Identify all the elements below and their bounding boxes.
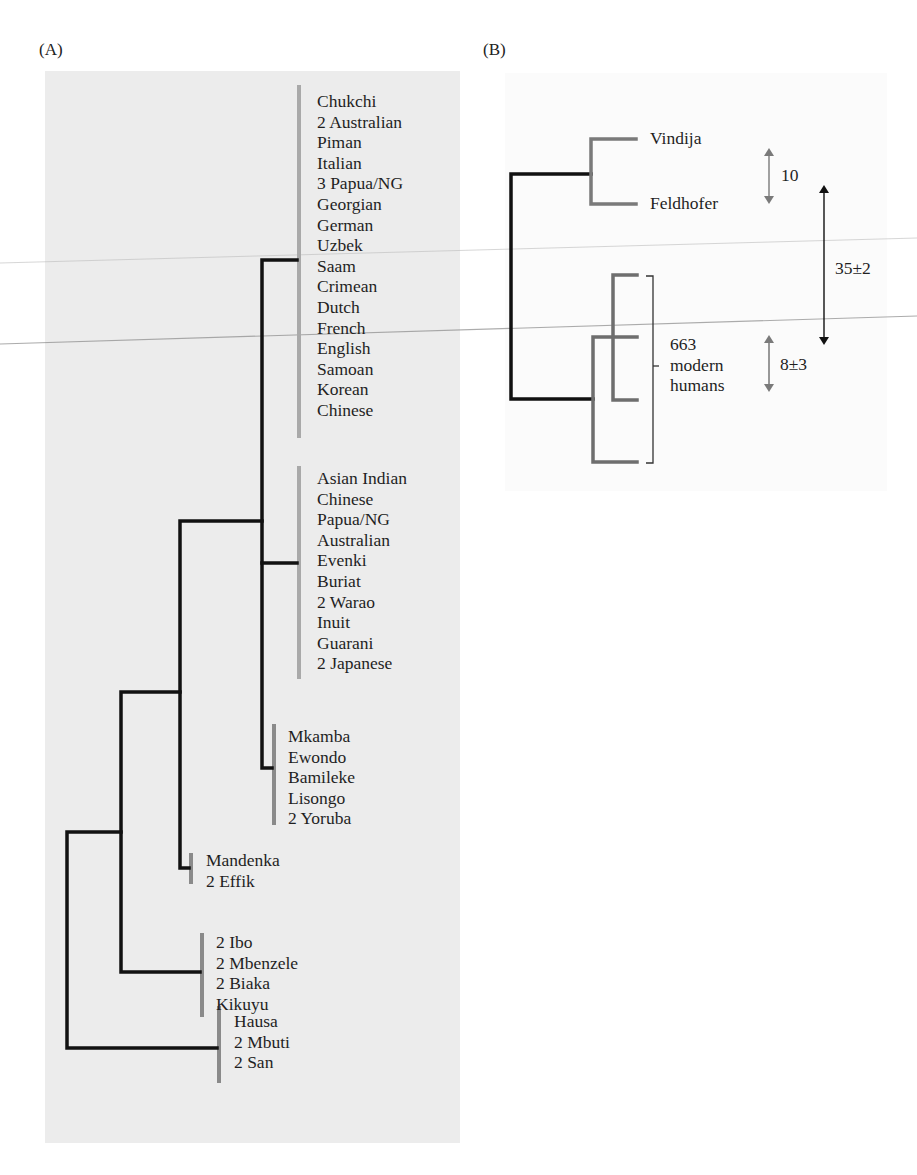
panel-b-neanderthal-branches <box>591 139 636 204</box>
annotation-modern-divergence: 8±3 <box>780 354 807 375</box>
taxon-label: 2 Effik <box>206 871 280 892</box>
taxa-group-5: 2 Ibo 2 Mbenzele 2 Biaka Kikuyu <box>216 932 298 1014</box>
taxon-label: German <box>317 215 403 236</box>
taxon-label: 2 Warao <box>317 592 407 613</box>
taxon-label: Papua/NG <box>317 509 407 530</box>
modern-humans-bracket <box>646 276 659 463</box>
taxon-label: Korean <box>317 379 403 400</box>
taxon-vindija: Vindija <box>650 128 701 149</box>
taxon-label: Chinese <box>317 489 407 510</box>
taxon-label: Italian <box>317 153 403 174</box>
taxon-label: Buriat <box>317 571 407 592</box>
taxon-label: 2 Mbenzele <box>216 953 298 974</box>
taxon-label: Saam <box>317 256 403 277</box>
taxon-label: Evenki <box>317 550 407 571</box>
panel-a-branches <box>67 260 297 1048</box>
taxa-group-3: Mkamba Ewondo Bamileke Lisongo 2 Yoruba <box>288 726 355 829</box>
annotation-split-divergence: 35±2 <box>835 258 871 279</box>
phylogenetic-tree-lines <box>0 0 917 1175</box>
taxon-label: Inuit <box>317 612 407 633</box>
taxon-feldhofer: Feldhofer <box>650 193 718 214</box>
taxon-label: Chukchi <box>317 91 403 112</box>
taxon-label: Bamileke <box>288 767 355 788</box>
taxon-label: 2 Biaka <box>216 973 298 994</box>
taxon-label: Hausa <box>234 1011 290 1032</box>
taxon-label: Mkamba <box>288 726 355 747</box>
taxon-label: Georgian <box>317 194 403 215</box>
taxon-label: Piman <box>317 132 403 153</box>
modern-humans-label: 663 modern humans <box>670 334 724 396</box>
taxon-label: Australian <box>317 530 407 551</box>
taxon-label: 2 Yoruba <box>288 808 355 829</box>
taxon-label: 2 Australian <box>317 112 403 133</box>
taxon-label: Dutch <box>317 297 403 318</box>
taxon-label: 2 Mbuti <box>234 1032 290 1053</box>
taxon-label: Ewondo <box>288 747 355 768</box>
taxa-group-4: Mandenka 2 Effik <box>206 850 280 891</box>
modern-label-line3: humans <box>670 375 724 396</box>
taxa-group-2: Asian Indian Chinese Papua/NG Australian… <box>317 468 407 674</box>
taxon-label: 3 Papua/NG <box>317 173 403 194</box>
taxa-group-6: Hausa 2 Mbuti 2 San <box>234 1011 290 1073</box>
taxon-label: 2 Ibo <box>216 932 298 953</box>
taxon-label: English <box>317 338 403 359</box>
annotation-neanderthal-divergence: 10 <box>781 165 799 186</box>
taxon-label: Crimean <box>317 276 403 297</box>
taxon-label: Samoan <box>317 359 403 380</box>
taxon-label: French <box>317 318 403 339</box>
taxon-label: 2 San <box>234 1052 290 1073</box>
taxon-label: Uzbek <box>317 235 403 256</box>
taxon-label: Lisongo <box>288 788 355 809</box>
taxon-label: Asian Indian <box>317 468 407 489</box>
taxon-label: 2 Japanese <box>317 653 407 674</box>
taxon-label: Guarani <box>317 633 407 654</box>
modern-count: 663 <box>670 334 724 355</box>
panel-b-root-branch <box>511 174 593 399</box>
taxa-group-1: Chukchi 2 Australian Piman Italian 3 Pap… <box>317 91 403 421</box>
panel-b-modern-branches <box>593 275 637 462</box>
taxon-label: Chinese <box>317 400 403 421</box>
modern-label-line2: modern <box>670 355 724 376</box>
taxon-label: Mandenka <box>206 850 280 871</box>
